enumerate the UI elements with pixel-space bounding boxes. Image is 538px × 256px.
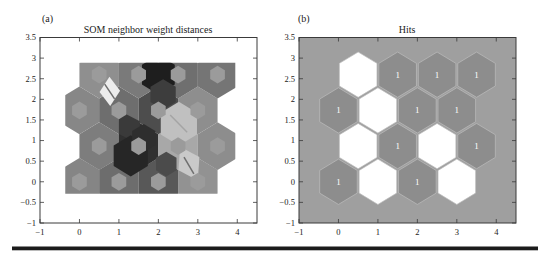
hit-count-label: 1 (455, 105, 460, 115)
x-tick-label: 3 (455, 227, 459, 237)
panel-b-title: Hits (399, 24, 416, 35)
x-tick-label: −1 (35, 227, 44, 237)
y-tick-label: 1.5 (25, 115, 36, 125)
y-tick-label: 2 (291, 94, 295, 104)
y-tick-label: 2 (32, 94, 36, 104)
y-tick-label: 1 (32, 135, 36, 145)
x-tick-label: 1 (376, 227, 380, 237)
panel-b-plot: 1111111111−101234−1−0.500.511.522.533.5 (280, 32, 516, 237)
y-tick-label: −1 (27, 218, 36, 228)
y-tick-label: 3 (291, 53, 295, 63)
panel-a-label: (a) (42, 13, 53, 25)
y-tick-label: 0 (32, 177, 36, 187)
hit-count-label: 1 (336, 105, 341, 115)
hit-count-label: 1 (474, 141, 479, 151)
y-tick-label: 3.5 (284, 32, 295, 42)
y-tick-label: 2.5 (25, 74, 36, 84)
y-tick-label: −0.5 (280, 197, 295, 207)
figure: (a) SOM neighbor weight distances −10123… (0, 0, 538, 256)
x-tick-label: −1 (294, 227, 303, 237)
hit-count-label: 1 (474, 70, 479, 80)
y-tick-label: 0 (291, 177, 295, 187)
hit-count-label: 1 (435, 70, 440, 80)
panel-a-plot: −101234−1−0.500.511.522.533.5 (21, 32, 257, 237)
panel-b-label: (b) (298, 13, 310, 25)
y-tick-label: 0.5 (284, 156, 295, 166)
y-tick-label: −1 (286, 218, 295, 228)
x-tick-label: 1 (117, 227, 121, 237)
hit-count-label: 1 (336, 177, 341, 187)
x-tick-label: 4 (235, 227, 240, 237)
hit-count-label: 1 (415, 105, 420, 115)
x-tick-label: 0 (336, 227, 340, 237)
x-tick-label: 3 (196, 227, 200, 237)
y-tick-label: −0.5 (21, 197, 36, 207)
hit-count-label: 1 (415, 177, 420, 187)
hit-count-label: 1 (395, 141, 400, 151)
y-tick-label: 1 (291, 135, 295, 145)
y-tick-label: 3.5 (25, 32, 36, 42)
y-tick-label: 0.5 (25, 156, 36, 166)
x-tick-label: 4 (494, 227, 499, 237)
x-tick-label: 2 (415, 227, 419, 237)
y-tick-label: 1.5 (284, 115, 295, 125)
hit-count-label: 1 (395, 70, 400, 80)
bottom-rule (12, 247, 538, 251)
panel-a-title: SOM neighbor weight distances (84, 24, 213, 35)
som-figure-svg: (a) SOM neighbor weight distances −10123… (0, 0, 538, 256)
x-tick-label: 0 (77, 227, 81, 237)
y-tick-label: 2.5 (284, 74, 295, 84)
y-tick-label: 3 (32, 53, 36, 63)
x-tick-label: 2 (156, 227, 160, 237)
